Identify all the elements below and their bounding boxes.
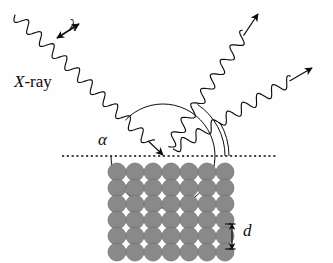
reflected-ray-lower-arrow	[290, 68, 312, 81]
lattice-atom	[180, 179, 198, 197]
lattice-atom	[108, 179, 126, 197]
lattice-atom	[126, 179, 144, 197]
lattice-atom	[216, 163, 234, 181]
lattice-atom	[162, 179, 180, 197]
incidence-angle-label: α	[98, 131, 107, 148]
lattice-atom	[144, 179, 162, 197]
wavelength-label: λ	[69, 18, 76, 34]
lattice-atom	[162, 163, 180, 181]
lattice-atom	[162, 195, 180, 213]
lattice-atom	[198, 227, 216, 245]
lattice-atom	[126, 243, 144, 261]
reflected-wave-lower-path	[173, 76, 290, 152]
lattice-atom	[144, 163, 162, 181]
reflected-xray-waves	[169, 14, 312, 152]
lattice-atom	[108, 243, 126, 261]
lattice-atom	[198, 163, 216, 181]
diagram-canvas	[0, 0, 333, 263]
lattice-atom	[126, 227, 144, 245]
lattice-atom	[216, 227, 234, 245]
lattice-atom	[144, 211, 162, 229]
lattice-atom	[126, 195, 144, 213]
lattice-atom	[162, 227, 180, 245]
lattice-atom	[216, 179, 234, 197]
lattice-atom	[144, 227, 162, 245]
lattice-atom	[108, 163, 126, 181]
lattice-atom	[144, 243, 162, 261]
xray-label: X-ray	[14, 73, 52, 90]
incident-ray-arrow	[148, 141, 163, 155]
lattice-atom	[198, 195, 216, 213]
lattice-atom	[180, 195, 198, 213]
interplanar-spacing-label: d	[243, 222, 252, 239]
crystal-atom-lattice	[108, 163, 234, 261]
lattice-atom	[198, 243, 216, 261]
xray-label-rest: -ray	[24, 72, 51, 91]
lattice-atom	[216, 195, 234, 213]
lattice-atom	[180, 211, 198, 229]
lattice-atom	[180, 243, 198, 261]
lattice-atom	[144, 195, 162, 213]
lattice-atom	[126, 211, 144, 229]
lattice-atom	[108, 211, 126, 229]
reflected-wave-upper-path	[169, 30, 245, 147]
xray-diffraction-figure: X-ray λ α d	[0, 0, 333, 263]
lattice-atom	[198, 179, 216, 197]
lattice-atom	[180, 227, 198, 245]
lattice-atom	[126, 163, 144, 181]
lattice-atom	[180, 163, 198, 181]
lattice-atom	[198, 211, 216, 229]
lattice-atom	[216, 211, 234, 229]
lattice-atom	[108, 195, 126, 213]
lattice-atom	[162, 211, 180, 229]
lattice-atom	[162, 243, 180, 261]
lattice-atom	[216, 243, 234, 261]
reflected-ray-upper-arrow	[243, 14, 258, 36]
xray-label-italic: X	[14, 72, 24, 91]
lattice-atom	[108, 227, 126, 245]
